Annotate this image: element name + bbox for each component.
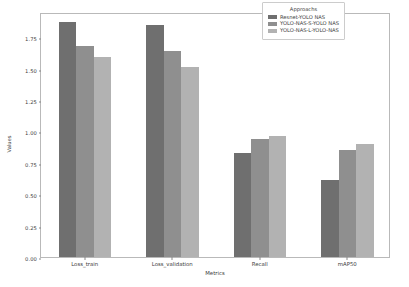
y-axis-tick-mark [39, 227, 42, 228]
bar [76, 46, 94, 257]
bar [234, 153, 252, 257]
x-axis-tick-label: Loss_validation [152, 261, 193, 267]
legend-item: Resnet-YOLO NAS [268, 15, 339, 20]
legend-item-label: YOLO-NAS-L-YOLO-NAS [280, 28, 339, 33]
x-axis-tick-label: mAP50 [338, 261, 357, 267]
x-axis-tick-label: Loss_train [71, 261, 98, 267]
y-axis-tick-mark [39, 196, 42, 197]
y-axis-tick-mark [39, 39, 42, 40]
legend-color-swatch [268, 15, 277, 19]
y-axis-label: Values [6, 135, 12, 152]
bar [59, 22, 77, 257]
x-axis-tick-mark [172, 257, 173, 260]
x-axis-tick-label: Recall [252, 261, 268, 267]
bar [164, 51, 182, 257]
x-axis-tick-mark [347, 257, 348, 260]
bar [356, 144, 374, 257]
bar [146, 25, 164, 257]
bar [251, 139, 269, 257]
bar [321, 180, 339, 257]
y-axis-tick-mark [39, 164, 42, 165]
legend-entries: Resnet-YOLO NASYOLO-NAS-S-YOLO NASYOLO-N… [268, 15, 339, 34]
bar [181, 67, 199, 257]
legend-color-swatch [268, 29, 277, 33]
y-axis-tick-mark [39, 101, 42, 102]
legend-item: YOLO-NAS-L-YOLO-NAS [268, 28, 339, 33]
y-axis-tick-mark [39, 133, 42, 134]
legend-color-swatch [268, 22, 277, 26]
y-axis-tick-mark [39, 259, 42, 260]
legend-title: Approachs [268, 6, 339, 12]
x-axis-tick-mark [84, 257, 85, 260]
figure: Metrics 0.000.250.500.751.001.251.501.75… [0, 0, 409, 287]
legend-item-label: YOLO-NAS-S-YOLO NAS [280, 21, 339, 26]
x-axis-label: Metrics [205, 270, 225, 276]
legend: Approachs Resnet-YOLO NASYOLO-NAS-S-YOLO… [262, 2, 345, 40]
legend-item: YOLO-NAS-S-YOLO NAS [268, 21, 339, 26]
legend-item-label: Resnet-YOLO NAS [280, 15, 325, 20]
y-axis-tick-mark [39, 70, 42, 71]
plot-axes: Metrics 0.000.250.500.751.001.251.501.75… [40, 13, 390, 258]
bar [339, 150, 357, 257]
plot-area [41, 14, 389, 257]
bar [269, 136, 287, 257]
x-axis-tick-mark [259, 257, 260, 260]
bar [94, 57, 112, 257]
